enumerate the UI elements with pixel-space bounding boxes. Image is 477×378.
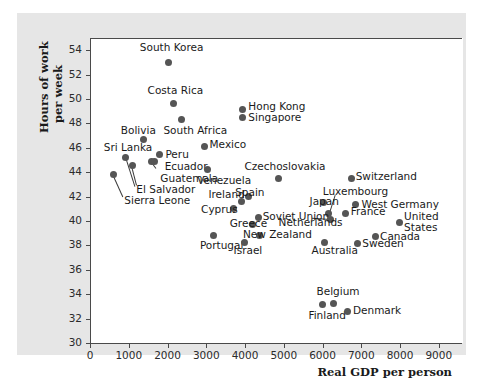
data-point-label: Finland (308, 310, 346, 321)
data-point-label: Ecuador (165, 161, 208, 172)
plot-panel: South KoreaCosta RicaSouth AfricaHong Ko… (90, 38, 462, 343)
y-tick-label: 42 (54, 190, 82, 202)
data-point[interactable] (110, 171, 117, 178)
y-tick-label: 30 (54, 336, 82, 348)
data-point[interactable] (354, 240, 361, 247)
data-point[interactable] (330, 300, 337, 307)
data-point-label: Venezuela (197, 175, 251, 186)
y-tick-label: 52 (54, 68, 82, 80)
y-tick-label: 54 (54, 43, 82, 55)
figure-container: Hours of work per week Real GDP per pers… (0, 0, 477, 378)
y-tick-label: 46 (54, 141, 82, 153)
data-point-label: Israel (234, 245, 263, 256)
data-point[interactable] (348, 175, 355, 182)
chart-card: Hours of work per week Real GDP per pers… (17, 13, 466, 355)
data-point[interactable] (342, 210, 349, 217)
data-point-label: Australia (311, 245, 357, 256)
data-point[interactable] (170, 100, 177, 107)
data-point-label: Spain (235, 187, 264, 198)
data-point-label: South Korea (140, 42, 204, 53)
data-point-label: South Africa (163, 125, 227, 136)
data-point[interactable] (275, 175, 282, 182)
data-point[interactable] (122, 154, 129, 161)
data-point-label: Czechoslovakia (244, 161, 325, 172)
y-tick-label: 44 (54, 165, 82, 177)
data-point-label: Singapore (248, 112, 301, 123)
y-tick-label: 36 (54, 263, 82, 275)
data-point[interactable] (129, 162, 136, 169)
data-point[interactable] (319, 301, 326, 308)
x-axis-line (90, 343, 462, 344)
data-point-label: Netherlands (279, 217, 343, 228)
data-point[interactable] (210, 232, 217, 239)
data-point-label: Mexico (210, 139, 247, 150)
data-point-label: Belgium (317, 286, 360, 297)
data-point-label: Japan (310, 196, 339, 207)
data-point[interactable] (165, 59, 172, 66)
data-point-label: Sweden (362, 238, 404, 249)
data-point[interactable] (156, 151, 163, 158)
y-tick-label: 38 (54, 238, 82, 250)
data-point[interactable] (178, 116, 185, 123)
data-point[interactable] (344, 308, 351, 315)
y-tick-label: 40 (54, 214, 82, 226)
data-point-label: Switzerland (356, 171, 417, 182)
y-tick-label: 32 (54, 312, 82, 324)
scatter-plot-area: South KoreaCosta RicaSouth AfricaHong Ko… (91, 39, 462, 343)
data-point[interactable] (201, 143, 208, 150)
data-point-label: New Zealand (243, 229, 312, 240)
data-point-label: Cyprus (201, 204, 238, 215)
plot-right-edge (462, 38, 463, 343)
data-point-label: Sierra Leone (124, 195, 190, 206)
x-axis-title: Real GDP per person (318, 365, 453, 378)
data-point[interactable] (239, 106, 246, 113)
data-point-label: Bolivia (121, 125, 156, 136)
data-point[interactable] (396, 219, 403, 226)
data-point-label: France (351, 206, 386, 217)
x-tick-label: 9000 (416, 349, 462, 361)
data-point[interactable] (239, 114, 246, 121)
y-tick-label: 50 (54, 92, 82, 104)
y-axis-title-line1: Hours of work (37, 41, 51, 133)
data-point-label: Peru (165, 149, 188, 160)
y-tick-label: 48 (54, 116, 82, 128)
label-leader-line (112, 174, 123, 198)
data-point-label: Denmark (353, 305, 401, 316)
y-tick-label: 34 (54, 287, 82, 299)
data-point-label: Sri Lanka (104, 142, 153, 153)
data-point-label: Costa Rica (148, 85, 204, 96)
data-point[interactable] (151, 158, 158, 165)
